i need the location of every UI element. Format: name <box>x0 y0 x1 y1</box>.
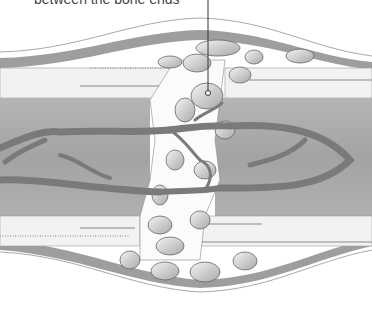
fracture-illustration: between the bone ends <box>0 0 372 309</box>
fracture-diagram <box>0 0 372 309</box>
